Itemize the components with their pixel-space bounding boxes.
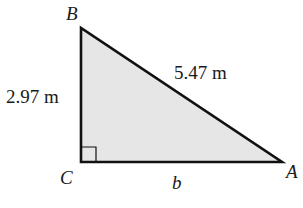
triangle-shape: [81, 28, 282, 162]
triangle-diagram: B C A 2.97 m 5.47 m b: [0, 0, 303, 208]
vertex-b-label: B: [66, 3, 78, 24]
side-bc-label: 2.97 m: [6, 86, 59, 107]
vertex-a-label: A: [284, 161, 298, 182]
vertex-c-label: C: [60, 167, 73, 188]
side-ab-label: 5.47 m: [174, 62, 227, 83]
side-ca-label: b: [172, 172, 182, 193]
